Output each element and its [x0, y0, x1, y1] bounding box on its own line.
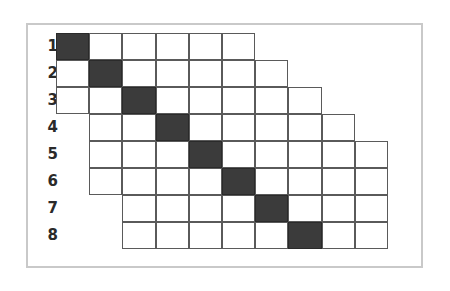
grid-cell-filled: [255, 195, 288, 222]
grid-cell-empty: [189, 195, 222, 222]
grid-cell-empty: [288, 141, 321, 168]
grid-cell-empty: [89, 87, 122, 114]
grid-cell-empty: [222, 33, 255, 60]
grid-cell-empty: [156, 195, 189, 222]
grid-cell-empty: [288, 195, 321, 222]
grid-cell-empty: [288, 168, 321, 195]
grid-cell-empty: [255, 87, 288, 114]
grid-cell-empty: [156, 222, 189, 249]
grid-cell-empty: [255, 168, 288, 195]
grid-cell-filled: [56, 33, 89, 60]
grid-cell-empty: [89, 114, 122, 141]
grid-cell-empty: [255, 141, 288, 168]
grid-cell-empty: [122, 222, 155, 249]
grid-cell-filled: [189, 141, 222, 168]
grid-cell-empty: [255, 222, 288, 249]
grid-cell-empty: [355, 168, 388, 195]
grid-cell-empty: [355, 195, 388, 222]
grid-cell-empty: [56, 60, 89, 87]
grid-cell-empty: [89, 141, 122, 168]
grid-cell-empty: [189, 114, 222, 141]
grid-cell-empty: [122, 60, 155, 87]
staircase-grid-diagram: 12345678: [0, 0, 450, 291]
row-label-8: 8: [38, 228, 58, 243]
grid-cell-empty: [255, 60, 288, 87]
grid-cell-filled: [222, 168, 255, 195]
row-label-5: 5: [38, 147, 58, 162]
grid-cell-empty: [156, 60, 189, 87]
grid-cell-filled: [288, 222, 321, 249]
grid-cell-empty: [355, 222, 388, 249]
grid-cell-empty: [122, 168, 155, 195]
grid-cell-empty: [222, 114, 255, 141]
grid-cell-empty: [222, 60, 255, 87]
grid-cell-empty: [122, 33, 155, 60]
grid-cell-empty: [189, 222, 222, 249]
grid-cell-empty: [222, 141, 255, 168]
grid-cell-empty: [288, 87, 321, 114]
grid-cell-empty: [222, 222, 255, 249]
grid-cell-empty: [156, 141, 189, 168]
grid-cell-filled: [122, 87, 155, 114]
row-label-4: 4: [38, 120, 58, 135]
grid-cell-empty: [156, 168, 189, 195]
grid-cell-empty: [56, 87, 89, 114]
grid-cell-empty: [189, 33, 222, 60]
row-label-6: 6: [38, 174, 58, 189]
grid-cell-empty: [322, 168, 355, 195]
grid-cell-empty: [322, 114, 355, 141]
grid-cell-empty: [222, 87, 255, 114]
grid-cell-empty: [222, 195, 255, 222]
grid-cell-empty: [355, 141, 388, 168]
grid-cell-empty: [189, 60, 222, 87]
grid-cell-empty: [255, 114, 288, 141]
grid-cell-empty: [89, 168, 122, 195]
grid-cell-empty: [189, 168, 222, 195]
row-label-3: 3: [38, 93, 58, 108]
grid-cell-empty: [322, 195, 355, 222]
grid-cell-empty: [122, 195, 155, 222]
grid-cell-empty: [156, 33, 189, 60]
grid-cell-empty: [122, 114, 155, 141]
grid-cell-empty: [89, 33, 122, 60]
grid-cell-empty: [288, 114, 321, 141]
grid-cell-filled: [156, 114, 189, 141]
grid-cell-empty: [156, 87, 189, 114]
grid-cell-empty: [122, 141, 155, 168]
grid-cell-empty: [189, 87, 222, 114]
grid-cell-empty: [322, 222, 355, 249]
row-label-7: 7: [38, 201, 58, 216]
row-label-2: 2: [38, 66, 58, 81]
row-label-1: 1: [38, 39, 58, 54]
grid-cell-filled: [89, 60, 122, 87]
grid-cell-empty: [322, 141, 355, 168]
